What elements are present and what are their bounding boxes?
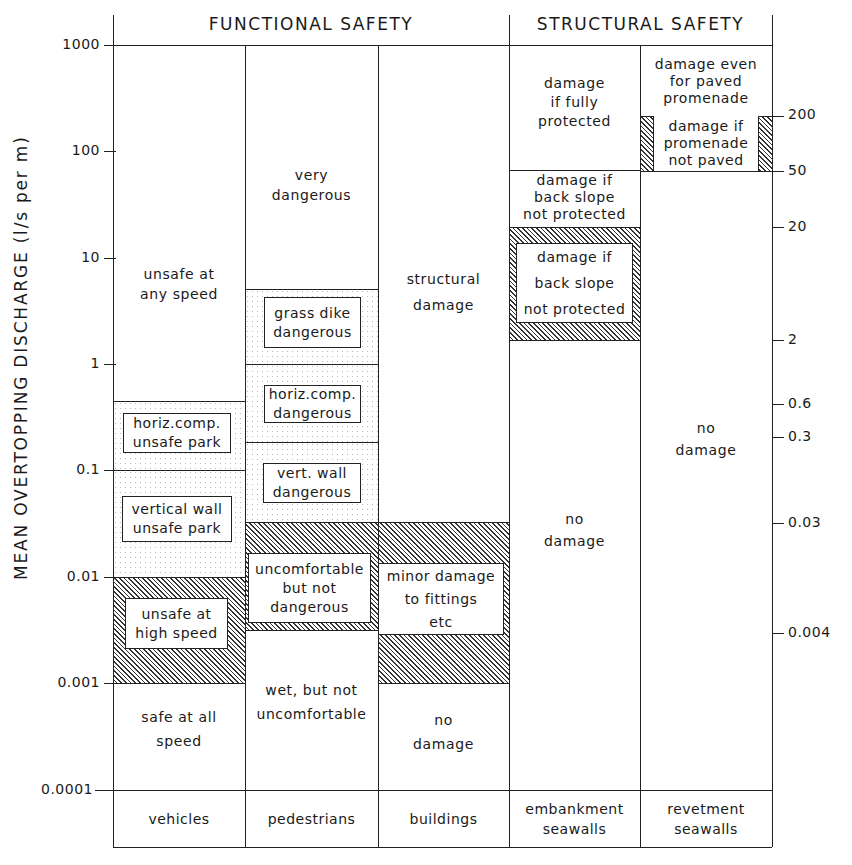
zone-label: uncomfortable — [255, 560, 364, 579]
zone-label: damage if — [669, 118, 744, 135]
zone-label: horiz.comp. — [269, 385, 357, 404]
category-label: vehicles — [148, 809, 209, 829]
zone-boundary — [245, 522, 378, 523]
left-tick — [104, 364, 116, 365]
right-tick-label: 0.004 — [788, 624, 831, 640]
zone-buildings-structural-damage: structural damage — [378, 266, 509, 318]
zone-label: uncomfortable — [256, 702, 366, 726]
group-divider — [509, 15, 510, 847]
zone-label: very — [295, 165, 328, 185]
zone-boundary — [113, 401, 245, 402]
zone-label: minor damage — [387, 565, 495, 588]
left-tick-label: 0.1 — [10, 461, 100, 477]
zone-boundary — [245, 442, 378, 443]
zone-label: damage — [676, 439, 737, 461]
zone-pedestrians-horiz-comp-dangerous: horiz.comp. dangerous — [264, 385, 361, 423]
zone-buildings-minor-damage: minor damage to fittings etc — [378, 563, 504, 635]
zone-boundary — [245, 289, 378, 290]
left-tick-label: 0.001 — [10, 674, 100, 690]
category-embankment-seawalls: embankment seawalls — [509, 790, 640, 847]
zone-revetment-damage-paved-promenade: damage even for paved promenade — [640, 52, 772, 110]
zone-label: horiz.comp. — [133, 414, 221, 433]
zone-label: safe at all — [141, 705, 216, 729]
left-tick-label: 100 — [10, 142, 100, 158]
zone-label: damage — [413, 732, 474, 756]
zone-vehicles-horiz-comp-unsafe-park: horiz.comp. unsafe park — [123, 413, 231, 453]
zone-label: speed — [156, 729, 201, 753]
category-bottom-line — [113, 847, 772, 848]
zone-label: for paved — [670, 73, 742, 90]
category-revetment-seawalls: revetment seawalls — [640, 790, 772, 847]
right-tick — [772, 437, 784, 438]
zone-boundary — [509, 340, 640, 341]
zone-label: not paved — [668, 152, 743, 169]
zone-label: damage — [544, 74, 605, 93]
left-tick-label: 0.0001 — [0, 781, 93, 797]
zone-boundary — [113, 470, 245, 471]
zone-label: dangerous — [273, 483, 352, 502]
category-pedestrians: pedestrians — [245, 790, 378, 847]
zone-label: dangerous — [270, 598, 349, 617]
zone-label: promenade — [663, 90, 749, 107]
right-tick — [772, 404, 784, 405]
zone-label: vertical wall — [132, 500, 223, 519]
left-tick-label: 1 — [10, 355, 100, 371]
right-tick — [772, 227, 784, 228]
zone-label: etc — [429, 611, 452, 634]
zone-vehicles-safe-all-speed: safe at all speed — [113, 705, 245, 753]
left-tick — [104, 258, 116, 259]
zone-label: dangerous — [272, 185, 351, 205]
left-tick — [104, 45, 116, 46]
zone-boundary — [113, 683, 245, 684]
zone-label: damage — [544, 530, 605, 552]
category-buildings: buildings — [378, 790, 509, 847]
right-tick-label: 50 — [788, 162, 807, 178]
zone-label: to fittings — [405, 588, 478, 611]
zone-revetment-damage-promenade-not-paved: damage if promenade not paved — [653, 116, 759, 171]
zone-label: no — [434, 708, 453, 732]
zone-pedestrians-uncomfortable-not-dangerous: uncomfortable but not dangerous — [248, 553, 371, 623]
left-tick-label: 10 — [10, 249, 100, 265]
zone-boundary — [378, 683, 509, 684]
zone-label: dangerous — [273, 323, 352, 342]
zone-label: high speed — [135, 624, 217, 643]
zone-label: wet, but not — [265, 678, 357, 702]
zone-vehicles-unsafe-high-speed: unsafe at high speed — [125, 598, 228, 649]
zone-embankment-damage-back-slope-upper: damage if back slope not protected — [509, 169, 640, 225]
zone-buildings-no-damage: no damage — [378, 708, 509, 756]
zone-label: unsafe park — [133, 519, 221, 538]
zone-label: damage if — [537, 244, 612, 270]
zone-label: damage if — [537, 172, 613, 189]
zone-label: no — [565, 508, 584, 530]
structural-safety-header: STRUCTURAL SAFETY — [509, 14, 772, 34]
zone-label: any speed — [140, 284, 218, 304]
right-tick-label: 0.03 — [788, 514, 821, 530]
zone-embankment-damage-fully-protected: damage if fully protected — [509, 72, 640, 132]
zone-label: damage — [413, 292, 474, 318]
right-tick-label: 2 — [788, 331, 797, 347]
zone-label: back slope — [535, 270, 615, 296]
right-tick — [772, 171, 784, 172]
zone-label: damage even — [655, 56, 758, 73]
zone-vehicles-unsafe-any-speed: unsafe at any speed — [113, 262, 245, 306]
category-label: seawalls — [674, 819, 738, 839]
left-tick-label: 0.01 — [10, 568, 100, 584]
zone-label: protected — [538, 112, 611, 131]
zone-label: if fully — [551, 93, 599, 112]
zone-label: unsafe at — [143, 264, 214, 284]
top-line — [113, 45, 772, 46]
right-tick-label: 20 — [788, 218, 807, 234]
right-tick-label: 0.3 — [788, 428, 812, 444]
functional-safety-header: FUNCTIONAL SAFETY — [113, 14, 509, 34]
zone-vehicles-vertical-wall-unsafe-park: vertical wall unsafe park — [122, 496, 232, 542]
zone-label: unsafe at — [141, 605, 211, 624]
zone-pedestrians-very-dangerous: very dangerous — [245, 163, 378, 207]
left-tick — [104, 470, 116, 471]
right-tick — [772, 633, 784, 634]
zone-label: unsafe park — [133, 433, 221, 452]
left-tick-label: 1000 — [10, 36, 100, 52]
zone-embankment-damage-back-slope-hatched: damage if back slope not protected — [516, 243, 633, 323]
zone-embankment-no-damage: no damage — [509, 508, 640, 552]
right-tick — [772, 116, 784, 117]
zone-label: no — [697, 417, 716, 439]
